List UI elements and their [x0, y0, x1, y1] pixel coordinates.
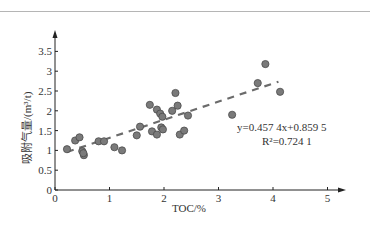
- y-tick-label: 1: [47, 144, 53, 156]
- x-tick-label: 5: [325, 192, 331, 204]
- data-point: [159, 126, 166, 133]
- data-point: [262, 60, 269, 67]
- data-point: [133, 132, 140, 139]
- data-point: [153, 131, 160, 138]
- x-tick-label: 2: [161, 192, 167, 204]
- data-point: [159, 113, 166, 120]
- y-tick-label: 0.5: [38, 164, 52, 176]
- data-point: [118, 147, 125, 154]
- x-tick-label: 3: [216, 192, 222, 204]
- y-tick-label: 3.5: [38, 45, 52, 57]
- x-tick-label: 4: [270, 192, 276, 204]
- scatter-chart: 00.511.522.533.5012345 y=0.457 4x+0.859 …: [0, 0, 370, 228]
- data-point: [80, 150, 87, 157]
- data-point: [146, 101, 153, 108]
- x-axis-title: TOC/%: [172, 202, 206, 214]
- y-tick-label: 2.5: [38, 85, 52, 97]
- axes: 00.511.522.533.5012345: [38, 30, 346, 204]
- data-point: [100, 138, 107, 145]
- data-point: [136, 123, 143, 130]
- data-point: [63, 146, 70, 153]
- data-point: [76, 134, 83, 141]
- x-tick-label: 0: [52, 192, 58, 204]
- equation-label: y=0.457 4x+0.859 5: [237, 121, 327, 133]
- x-axis-arrow-icon: [338, 188, 346, 193]
- data-points: [63, 60, 283, 158]
- data-point: [229, 111, 236, 118]
- data-point: [172, 89, 179, 96]
- data-point: [254, 79, 261, 86]
- y-axis-arrow-icon: [53, 30, 58, 38]
- data-point: [276, 88, 283, 95]
- y-tick-label: 2: [47, 105, 53, 117]
- data-point: [174, 102, 181, 109]
- data-point: [181, 127, 188, 134]
- y-tick-label: 1.5: [38, 125, 52, 137]
- data-point: [184, 112, 191, 119]
- y-tick-label: 3: [47, 65, 53, 77]
- x-tick-label: 1: [107, 192, 113, 204]
- y-axis-title: 吸附气量/(m³/t): [20, 91, 34, 164]
- r-squared-label: R²=0.724 1: [262, 135, 312, 147]
- data-point: [111, 144, 118, 151]
